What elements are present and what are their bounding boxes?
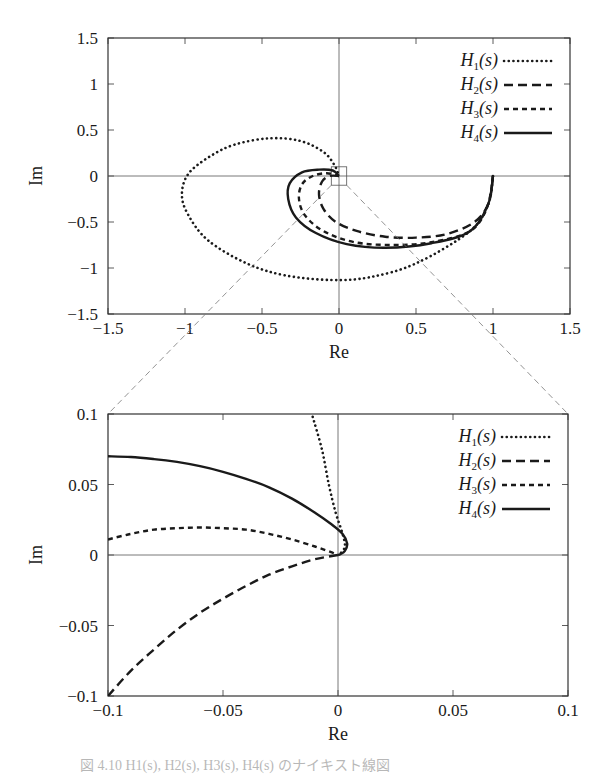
y-tick-label: 0 — [90, 167, 99, 186]
figure-caption: 図 4.10 H1(s), H2(s), H3(s), H4(s) のナイキスト… — [80, 754, 390, 774]
y-tick-label: 0 — [90, 546, 99, 565]
y-tick-label: 0.5 — [77, 121, 98, 140]
x-tick-label: −0.05 — [203, 701, 242, 720]
legend-label: H4(s) — [460, 122, 499, 144]
top-y-axis-label: Im — [26, 166, 46, 186]
y-tick-label: 1 — [90, 75, 99, 94]
y-tick-label: 0.05 — [68, 476, 98, 495]
legend-label: H1(s) — [460, 50, 499, 72]
bottom-x-tick-labels: −0.1−0.0500.050.1 — [93, 701, 579, 720]
bottom-plot-curves — [108, 417, 347, 696]
top-y-tick-labels: 1.510.50−0.5−1−1.5 — [67, 29, 98, 324]
bottom-x-axis-label: Re — [328, 724, 348, 744]
bottom-y-axis-label: Im — [26, 545, 46, 565]
x-tick-label: 1.5 — [559, 319, 580, 338]
legend-label: H1(s) — [458, 426, 497, 448]
x-tick-label: 0.5 — [405, 319, 426, 338]
curve-h4s — [288, 169, 493, 247]
curve-h2s — [108, 555, 338, 696]
top-x-axis-label: Re — [329, 342, 349, 362]
bottom-y-tick-labels: 0.10.050−0.05−0.1 — [59, 405, 98, 706]
curve-h1s — [313, 417, 345, 555]
curve-h4s — [108, 456, 347, 555]
legend-label: H3(s) — [458, 474, 497, 496]
legend-label: H4(s) — [458, 498, 497, 520]
y-tick-label: 0.1 — [77, 405, 98, 424]
top-x-tick-labels: −1.5−1−0.500.511.5 — [93, 319, 581, 338]
x-tick-label: 1 — [489, 319, 498, 338]
curve-h3s — [108, 528, 338, 556]
y-tick-label: −0.1 — [67, 687, 98, 706]
x-tick-label: 0 — [335, 319, 344, 338]
legend-label: H2(s) — [460, 74, 499, 96]
legend-label: H3(s) — [460, 98, 499, 120]
bottom-nyquist-zoom-plot: −0.1−0.0500.050.1 0.10.050−0.05−0.1 Re I… — [26, 405, 579, 744]
curve-h1s — [182, 138, 493, 280]
y-tick-label: −0.5 — [67, 213, 98, 232]
x-tick-label: 0 — [334, 701, 343, 720]
y-tick-label: −0.05 — [59, 617, 98, 636]
legend-label: H2(s) — [458, 450, 497, 472]
y-tick-label: 1.5 — [77, 29, 98, 48]
top-plot-legend: H1(s)H2(s)H3(s)H4(s) — [460, 50, 553, 144]
y-tick-label: −1 — [80, 259, 98, 278]
y-tick-label: −1.5 — [67, 305, 98, 324]
x-tick-label: 0.1 — [557, 701, 578, 720]
x-tick-label: −0.5 — [247, 319, 278, 338]
zoom-connector-right — [347, 185, 568, 414]
x-tick-label: 0.05 — [438, 701, 468, 720]
top-plot-curves — [182, 138, 493, 280]
zoom-connector-lines — [108, 185, 568, 414]
bottom-plot-legend: H1(s)H2(s)H3(s)H4(s) — [458, 426, 551, 520]
top-nyquist-plot: −1.5−1−0.500.511.5 1.510.50−0.5−1−1.5 Re… — [26, 29, 581, 362]
